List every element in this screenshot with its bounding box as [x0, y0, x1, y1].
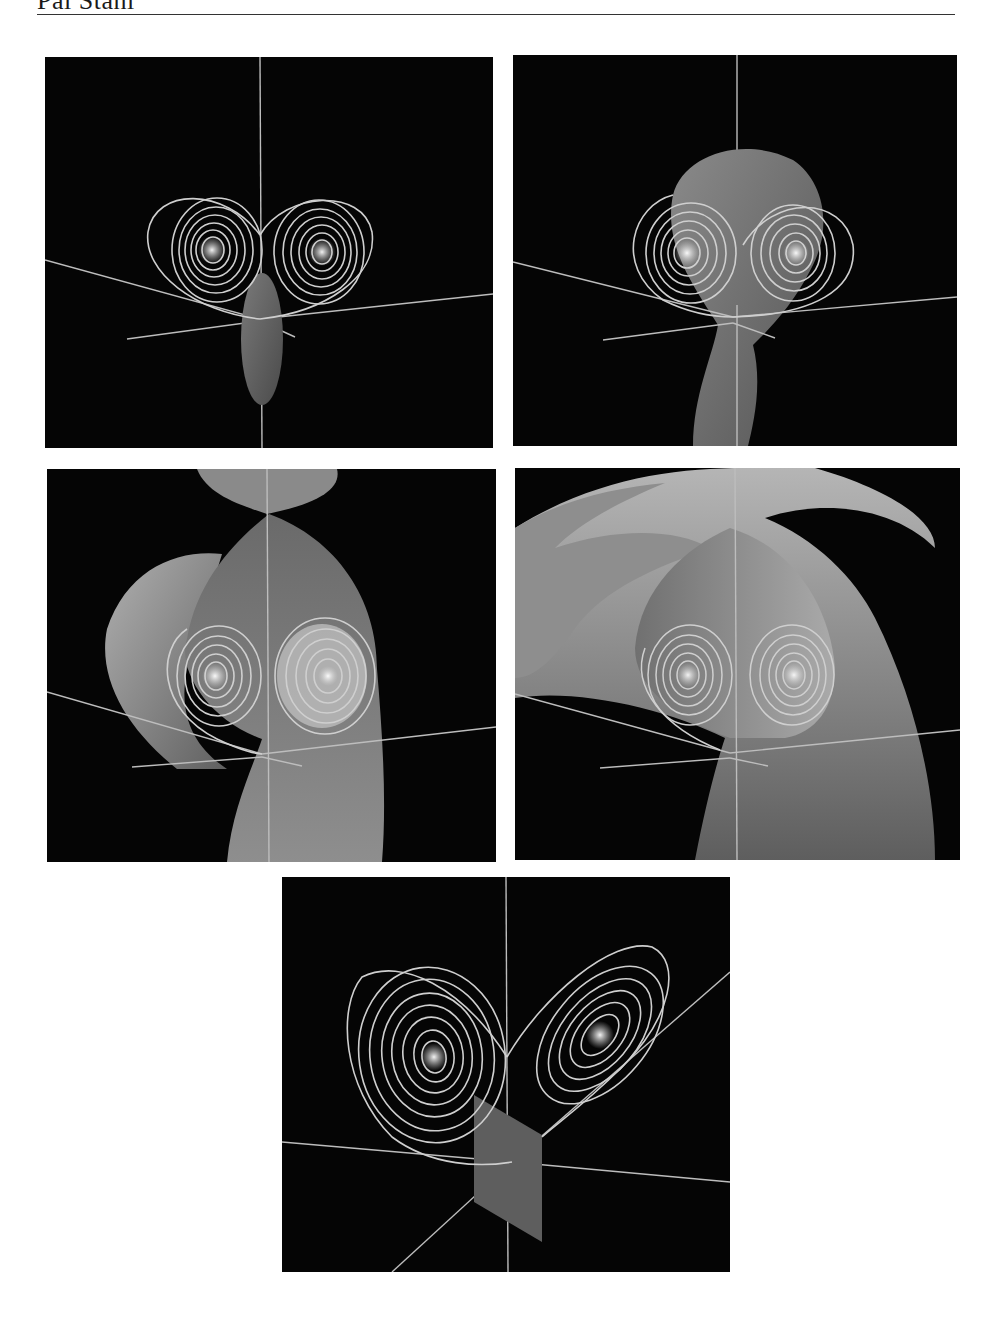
lorenz-attractor-plot — [45, 57, 493, 448]
figure-panel-4 — [515, 468, 960, 860]
header-rule — [37, 14, 955, 15]
figure-panel-3 — [47, 469, 496, 862]
figure-panel-1 — [45, 57, 493, 448]
lorenz-manifold-plot — [515, 468, 960, 860]
lorenz-manifold-plot — [47, 469, 496, 862]
lorenz-manifold-plot — [513, 55, 957, 446]
lorenz-poincare-section-plot — [282, 877, 730, 1272]
poincare-section-plane — [474, 1095, 542, 1242]
figure-panel-5 — [282, 877, 730, 1272]
figure-panel-2 — [513, 55, 957, 446]
